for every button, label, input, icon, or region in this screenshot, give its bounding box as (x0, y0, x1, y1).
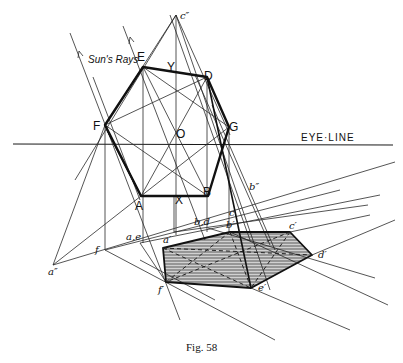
eye-line (13, 144, 393, 145)
label-b-double-prime: b″ (249, 181, 259, 192)
label-G: G (229, 120, 238, 134)
label-c-prime: c′ (289, 220, 298, 231)
label-B: B (203, 185, 211, 199)
label-F: F (93, 119, 100, 133)
label-a-double-prime: a″ (48, 266, 58, 277)
label-c-double-prime: c″ (180, 10, 190, 21)
label-d-prime: d′ (318, 249, 327, 260)
label-f: f (94, 244, 101, 255)
figure-caption: Fig. 58 (186, 341, 218, 353)
label-X: X (175, 193, 183, 207)
perspective-shadow-diagram: E Y D F O G A X B c″ a″ b″ f a,e b,d c a… (0, 0, 403, 363)
label-D: D (204, 69, 213, 83)
label-e-prime: e′ (258, 282, 267, 293)
sun-rays-label: Sun's Rays (88, 54, 138, 65)
label-A: A (135, 199, 143, 213)
label-a-e: a,e (126, 231, 141, 242)
label-Y: Y (167, 60, 175, 74)
sun-ray-arrow-icon (78, 51, 83, 58)
label-O: O (176, 127, 185, 141)
label-a-prime: a′ (163, 234, 172, 245)
label-c: c (229, 207, 235, 218)
eye-line-label: EYE·LINE (301, 132, 355, 143)
label-f-prime: f′ (157, 284, 165, 295)
label-b-prime: b′ (226, 219, 235, 230)
label-b-d: b,d (194, 216, 210, 227)
hexagon-abgdef (105, 67, 229, 196)
